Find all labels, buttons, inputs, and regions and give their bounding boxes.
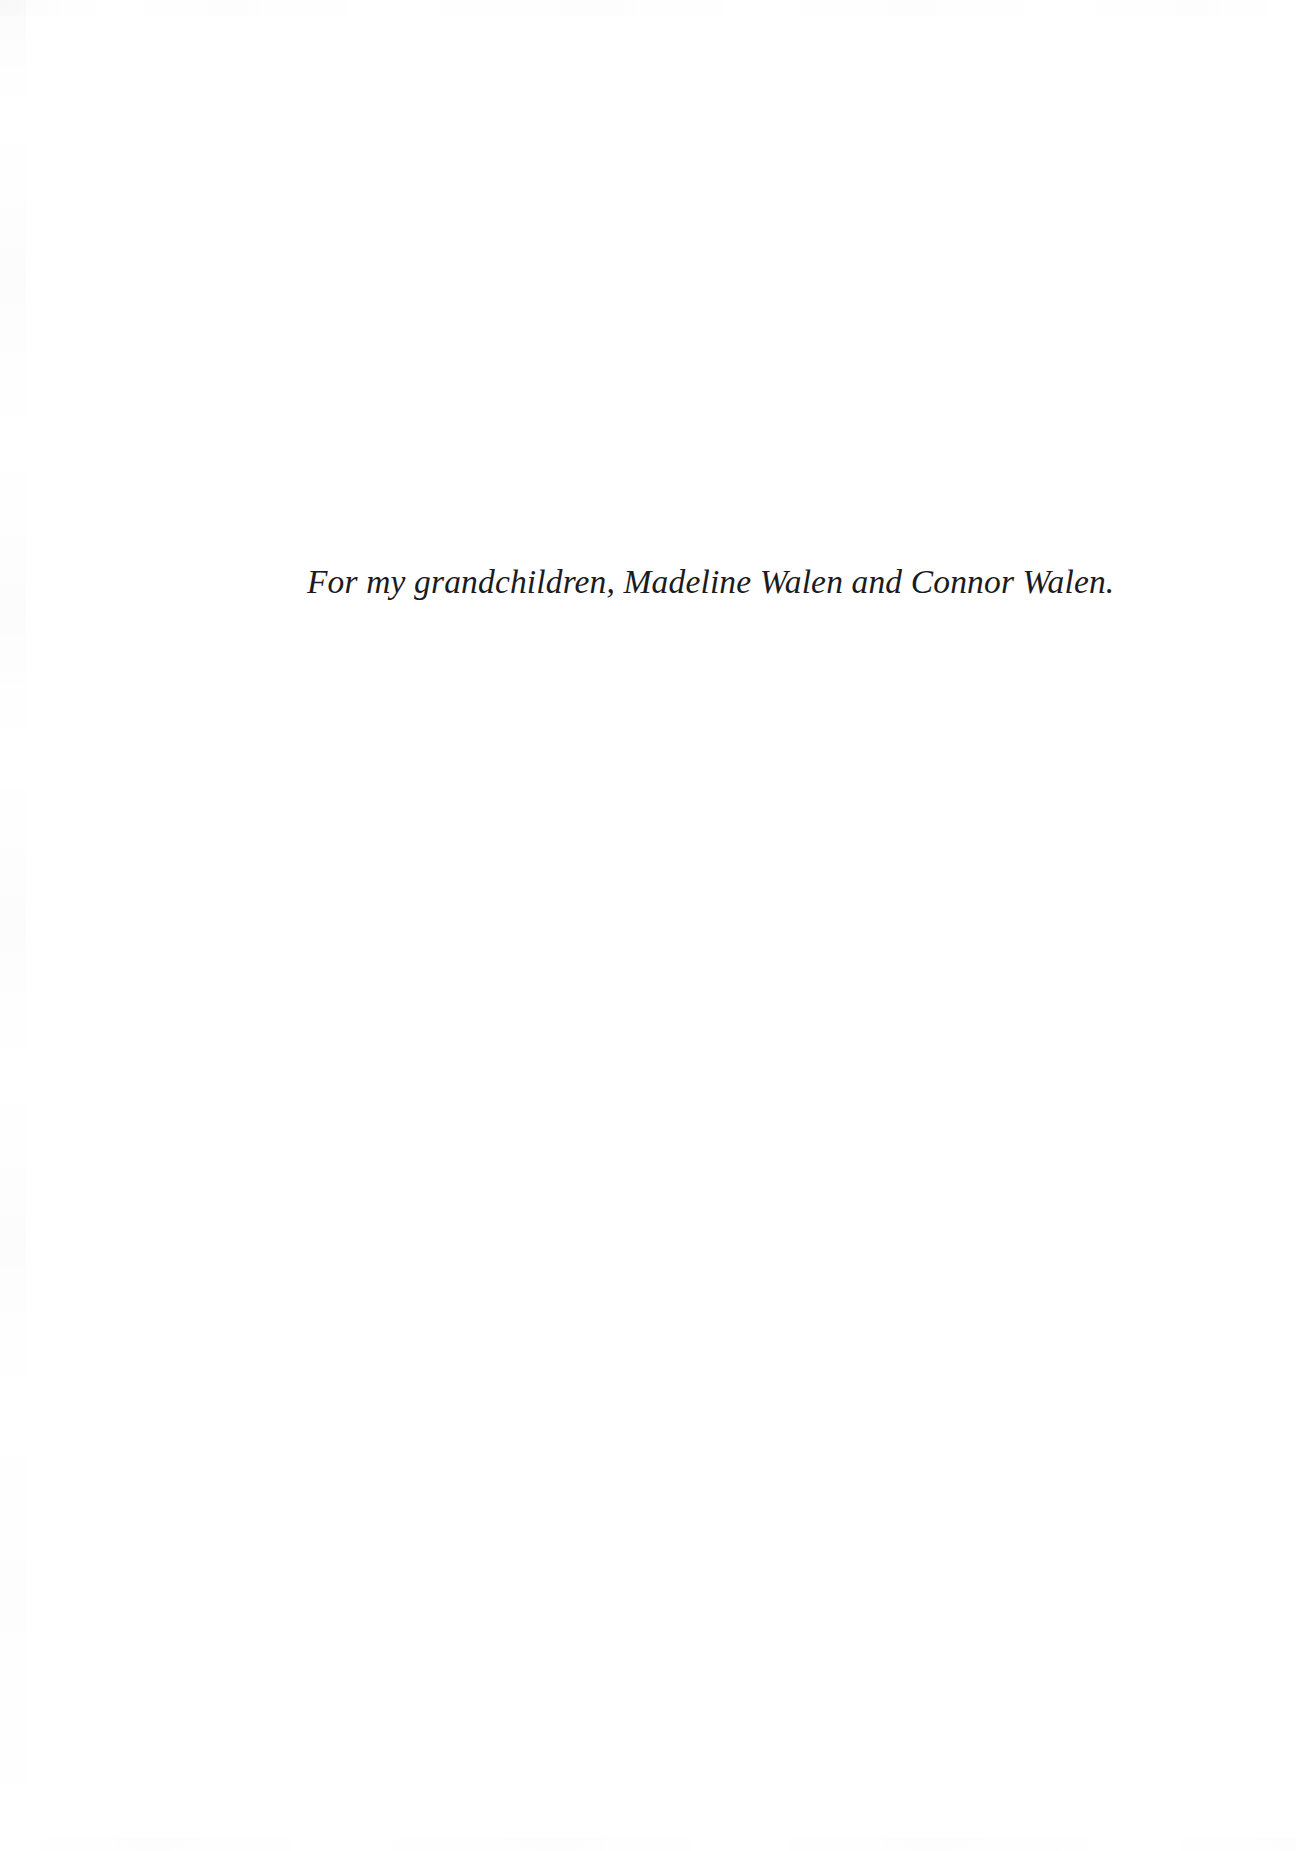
dedication-block: For my grandchildren, Madeline Walen and… [307,562,1007,606]
scan-artifact-top-edge [0,0,1296,16]
dedication-page: For my grandchildren, Madeline Walen and… [0,0,1296,1851]
scan-artifact-bottom-edge [0,1837,1296,1851]
scan-artifact-left-edge [0,0,26,1851]
dedication-text: For my grandchildren, Madeline Walen and… [307,562,1114,602]
